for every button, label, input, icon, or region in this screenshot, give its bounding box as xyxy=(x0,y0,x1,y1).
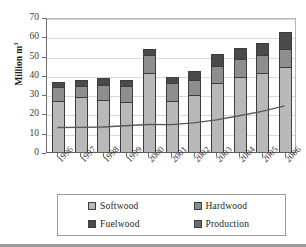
y-tick-label-50: 50 xyxy=(30,52,40,62)
legend-label-softwood: Softwood xyxy=(100,201,139,211)
bar-segment-hardwood-2002 xyxy=(188,80,201,96)
legend-swatch-hardwood xyxy=(194,202,202,210)
bar-group-1997 xyxy=(75,80,88,153)
legend-item-softwood: Softwood xyxy=(58,201,172,211)
bar-segment-fuelwood-2002 xyxy=(188,71,201,79)
bar-segment-hardwood-1998 xyxy=(97,85,110,100)
bar-segment-softwood-2000 xyxy=(143,73,156,153)
legend-label-production: Production xyxy=(206,219,250,229)
bar-segment-hardwood-1996 xyxy=(52,87,65,101)
legend-swatch-softwood xyxy=(88,202,96,210)
y-tick-label-70: 70 xyxy=(30,13,40,23)
bar-segment-softwood-2003 xyxy=(211,83,224,153)
legend-item-hardwood: Hardwood xyxy=(172,201,286,211)
legend-label-fuelwood: Fuelwood xyxy=(100,219,140,229)
bar-segment-softwood-1997 xyxy=(75,97,88,154)
bar-group-2004 xyxy=(234,48,247,153)
bar-group-1999 xyxy=(120,80,133,153)
chart-legend: Softwood Hardwood Fuelwood Production xyxy=(57,194,286,236)
bar-segment-fuelwood-2003 xyxy=(211,54,224,65)
bar-segment-fuelwood-2005 xyxy=(256,43,269,55)
bar-segment-softwood-2001 xyxy=(166,101,179,153)
bar-segment-softwood-1999 xyxy=(120,102,133,153)
y-axis-ticks: 010203040506070 xyxy=(0,18,46,153)
bar-segment-hardwood-2003 xyxy=(211,66,224,84)
y-tick-label-40: 40 xyxy=(30,71,40,81)
plot-area xyxy=(46,18,296,153)
bar-segment-softwood-2004 xyxy=(234,77,247,153)
chart-container: Million m3 010203040506070 1996199719981… xyxy=(0,0,306,247)
bar-group-2002 xyxy=(188,71,201,153)
gridline-70 xyxy=(47,19,295,20)
bar-segment-softwood-2006 xyxy=(279,67,292,153)
legend-swatch-production xyxy=(194,220,202,228)
legend-swatch-fuelwood xyxy=(88,220,96,228)
bar-segment-hardwood-2000 xyxy=(143,55,156,73)
bar-segment-softwood-2002 xyxy=(188,95,201,153)
bar-segment-hardwood-2005 xyxy=(256,55,269,72)
y-tick-label-0: 0 xyxy=(34,148,39,158)
bar-segment-hardwood-2001 xyxy=(166,83,179,101)
bar-segment-softwood-1998 xyxy=(97,100,110,153)
bar-segment-hardwood-1999 xyxy=(120,86,133,102)
bar-segment-softwood-1996 xyxy=(52,101,65,153)
bar-group-1998 xyxy=(97,78,110,153)
bar-segment-fuelwood-2006 xyxy=(279,32,292,49)
gridline-60 xyxy=(47,38,295,39)
x-axis-labels: 1996199719981999200020012002200320042005… xyxy=(46,153,296,193)
legend-item-production: Production xyxy=(172,219,286,229)
bar-segment-hardwood-2004 xyxy=(234,59,247,77)
legend-item-fuelwood: Fuelwood xyxy=(58,219,172,229)
bar-segment-softwood-2005 xyxy=(256,73,269,153)
bar-segment-hardwood-1997 xyxy=(75,86,88,97)
bar-group-2006 xyxy=(279,32,292,153)
legend-label-hardwood: Hardwood xyxy=(206,201,248,211)
y-tick-label-20: 20 xyxy=(30,110,40,120)
bar-segment-hardwood-2006 xyxy=(279,49,292,66)
y-tick-label-60: 60 xyxy=(30,33,40,43)
bar-group-1996 xyxy=(52,82,65,153)
y-tick-label-10: 10 xyxy=(30,129,40,139)
bar-segment-fuelwood-2004 xyxy=(234,48,247,59)
y-tick-label-30: 30 xyxy=(30,90,40,100)
bar-group-2001 xyxy=(166,77,179,153)
bar-group-2003 xyxy=(211,54,224,153)
bar-group-2005 xyxy=(256,43,269,153)
bar-group-2000 xyxy=(143,49,156,153)
